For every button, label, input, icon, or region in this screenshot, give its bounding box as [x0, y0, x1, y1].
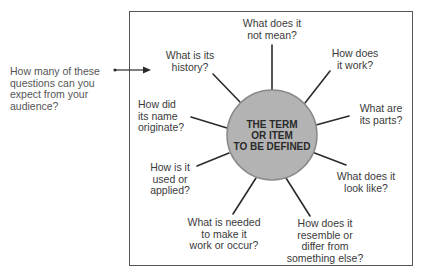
question-originate: How did its name originate? [138, 99, 190, 134]
pointer-arrow-icon [113, 67, 151, 74]
center-line: OR ITEM [227, 130, 317, 141]
question-line: What does it [236, 18, 308, 30]
question-line: history? [160, 62, 220, 74]
spoke-parts [316, 116, 349, 125]
question-line: something else? [284, 253, 366, 265]
center-label: THE TERM OR ITEM TO BE DEFINED [227, 119, 317, 152]
prompt-line: audience? [10, 101, 100, 113]
question-line: What is needed [184, 217, 264, 229]
question-line: What is its [160, 50, 220, 62]
question-history: What is its history? [160, 50, 220, 73]
audience-prompt: How many of these questions can you expe… [10, 66, 100, 112]
question-line: differ from [284, 241, 366, 253]
question-look-like: What does it look like? [330, 171, 402, 194]
spoke-history [213, 74, 240, 102]
question-line: work or occur? [184, 240, 264, 252]
question-line: What does it [330, 171, 402, 183]
question-needed: What is needed to make it work or occur? [184, 217, 264, 252]
center-line: THE TERM [227, 119, 317, 130]
question-line: How does [325, 48, 385, 60]
question-not-mean: What does it not mean? [236, 18, 308, 41]
question-line: How is it [143, 162, 197, 174]
question-line: How did [138, 99, 190, 111]
question-line: look like? [330, 183, 402, 195]
spoke-how-work [305, 71, 330, 103]
question-line: What are [351, 103, 411, 115]
question-line: How does it [284, 218, 366, 230]
spoke-needed [233, 178, 256, 214]
spoke-look-like [312, 152, 346, 165]
prompt-line: How many of these [10, 66, 100, 78]
question-used: How is it used or applied? [143, 162, 197, 197]
spoke-originate [191, 117, 227, 128]
spoke-used [197, 153, 229, 166]
question-line: applied? [143, 185, 197, 197]
question-line: its parts? [351, 115, 411, 127]
question-how-work: How does it work? [325, 48, 385, 71]
question-line: not mean? [236, 30, 308, 42]
question-parts: What are its parts? [351, 103, 411, 126]
center-line: TO BE DEFINED [227, 141, 317, 152]
spoke-resemble [286, 178, 310, 216]
question-resemble: How does it resemble or differ from some… [284, 218, 366, 264]
prompt-line: expect from your [10, 89, 100, 101]
question-line: originate? [138, 122, 190, 134]
question-line: it work? [325, 60, 385, 72]
